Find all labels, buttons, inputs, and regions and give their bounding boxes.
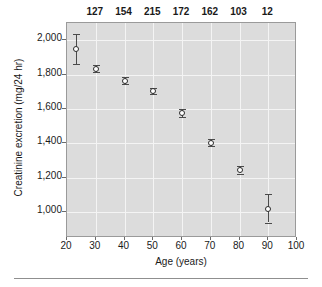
gridline-vertical bbox=[211, 23, 212, 236]
marker-open-circle bbox=[208, 140, 214, 146]
error-bar-cap-lower bbox=[208, 146, 215, 147]
gridline-vertical bbox=[240, 23, 241, 236]
error-bar-cap-lower bbox=[237, 174, 244, 175]
y-tick-mark bbox=[62, 39, 66, 40]
gridline-vertical bbox=[96, 23, 97, 236]
x-tick-label: 80 bbox=[226, 240, 252, 251]
y-tick-label: 1,600 bbox=[28, 101, 62, 112]
y-tick-label: 1,800 bbox=[28, 67, 62, 78]
gridline-vertical bbox=[182, 23, 183, 236]
y-tick-mark bbox=[62, 177, 66, 178]
sample-size-label: 12 bbox=[254, 6, 280, 17]
y-axis-title: Creatinine excretion (mg/24 hr) bbox=[13, 23, 24, 233]
error-bar-cap-lower bbox=[122, 84, 129, 85]
marker-open-circle bbox=[237, 167, 243, 173]
x-tick-label: 40 bbox=[111, 240, 137, 251]
error-bar-cap-lower bbox=[73, 64, 80, 65]
sample-size-label: 127 bbox=[82, 6, 108, 17]
error-bar-cap-lower bbox=[93, 72, 100, 73]
gridline-horizontal bbox=[67, 143, 295, 144]
plot-panel bbox=[66, 22, 296, 237]
gridline-vertical bbox=[153, 23, 154, 236]
y-tick-mark bbox=[62, 108, 66, 109]
y-tick-label: 1,200 bbox=[28, 170, 62, 181]
marker-open-circle bbox=[179, 110, 185, 116]
gridline-horizontal bbox=[67, 212, 295, 213]
sample-size-label: 103 bbox=[226, 6, 252, 17]
y-tick-label: 2,000 bbox=[28, 32, 62, 43]
x-tick-label: 50 bbox=[139, 240, 165, 251]
x-tick-label: 60 bbox=[168, 240, 194, 251]
sample-size-label: 154 bbox=[111, 6, 137, 17]
marker-open-circle bbox=[265, 206, 271, 212]
x-tick-label: 90 bbox=[254, 240, 280, 251]
sample-size-label: 215 bbox=[139, 6, 165, 17]
gridline-horizontal bbox=[67, 178, 295, 179]
marker-open-circle bbox=[122, 78, 128, 84]
error-bar-cap-lower bbox=[150, 94, 157, 95]
footer-divider bbox=[14, 278, 308, 279]
gridline-horizontal bbox=[67, 40, 295, 41]
marker-open-circle bbox=[73, 46, 79, 52]
chart-figure: 12715421517216210312 2030405060708090100… bbox=[0, 0, 322, 287]
x-axis-title: Age (years) bbox=[66, 256, 296, 267]
gridline-horizontal bbox=[67, 75, 295, 76]
x-tick-label: 70 bbox=[197, 240, 223, 251]
gridline-vertical bbox=[125, 23, 126, 236]
error-bar-cap-upper bbox=[265, 194, 272, 195]
y-tick-label: 1,400 bbox=[28, 135, 62, 146]
x-tick-label: 30 bbox=[82, 240, 108, 251]
y-tick-label: 1,000 bbox=[28, 204, 62, 215]
y-tick-mark bbox=[62, 142, 66, 143]
error-bar-cap-lower bbox=[265, 223, 272, 224]
x-tick-label: 100 bbox=[283, 240, 309, 251]
sample-size-label: 162 bbox=[197, 6, 223, 17]
error-bar-cap-upper bbox=[73, 34, 80, 35]
y-tick-mark bbox=[62, 211, 66, 212]
y-tick-mark bbox=[62, 74, 66, 75]
y-axis-ticks: 1,0001,2001,4001,6001,8002,000 bbox=[24, 0, 62, 287]
error-bar-cap-lower bbox=[179, 117, 186, 118]
marker-open-circle bbox=[93, 66, 99, 72]
sample-size-label: 172 bbox=[168, 6, 194, 17]
